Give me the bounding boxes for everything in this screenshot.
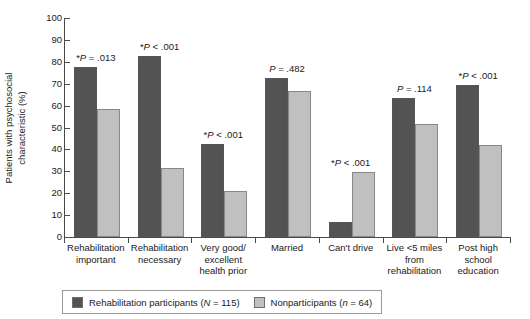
x-axis-line	[64, 237, 511, 238]
y-axis-tick-label: 30	[51, 166, 62, 176]
y-axis-tick-mark	[65, 215, 70, 216]
y-axis-tick-mark	[65, 193, 70, 194]
y-axis-tick-mark	[65, 128, 70, 129]
y-axis-title: Patients with psychosocial characteristi…	[0, 18, 30, 237]
bars-container	[65, 18, 511, 237]
p-value-annotation: *P < .001	[140, 41, 179, 52]
bar-participants	[138, 56, 161, 237]
y-axis-tick-mark	[65, 106, 70, 107]
bar-nonparticipants	[479, 145, 502, 237]
legend-swatch-light	[254, 297, 265, 308]
y-axis-title-line2: characteristic (%)	[15, 18, 28, 237]
p-value-annotation: *P < .001	[458, 70, 497, 81]
x-axis-category-label: Post highschooleducation	[439, 242, 517, 277]
p-value-annotation: *P < .001	[331, 157, 370, 168]
y-axis-tick-mark	[65, 84, 70, 85]
y-axis-tick-label: 80	[51, 57, 62, 67]
y-axis-title-line1: Patients with psychosocial	[3, 18, 16, 237]
bar-participants	[201, 144, 224, 237]
y-axis-tick-mark	[65, 18, 70, 19]
y-axis-tick-label: 50	[51, 123, 62, 133]
x-axis-category-label-line: education	[439, 265, 517, 277]
bar-participants	[456, 85, 479, 237]
p-value-annotation: P = .482	[269, 63, 305, 74]
y-axis-tick-label: 40	[51, 144, 62, 154]
plot-area: *P = .013*P < .001*P < .001P = .482*P < …	[64, 18, 510, 237]
y-axis-tick-labels: 1009080706050403020100	[28, 18, 62, 237]
y-axis-tick-label: 20	[51, 188, 62, 198]
p-value-annotation: *P < .001	[204, 129, 243, 140]
legend-entry: Nonparticipants (n = 64)	[254, 297, 373, 308]
bar-chart-figure: Patients with psychosocial characteristi…	[0, 0, 530, 319]
chart-legend: Rehabilitation participants (N = 115)Non…	[62, 290, 382, 314]
bar-nonparticipants	[352, 172, 375, 237]
y-axis-tick-label: 70	[51, 79, 62, 89]
x-axis-category-label-line: excellent	[184, 254, 262, 266]
bar-nonparticipants	[161, 168, 184, 237]
y-axis-tick-label: 10	[51, 210, 62, 220]
legend-swatch-dark	[72, 297, 83, 308]
x-axis-tick-labels: RehabilitationimportantRehabilitationnec…	[64, 242, 511, 284]
y-axis-tick-label: 0	[57, 232, 62, 242]
x-axis-category-label-line: school	[439, 254, 517, 266]
legend-entry: Rehabilitation participants (N = 115)	[72, 297, 240, 308]
bar-nonparticipants	[415, 124, 438, 237]
bar-participants	[329, 222, 352, 237]
bar-nonparticipants	[97, 109, 120, 237]
p-value-annotation: P = .114	[397, 83, 432, 94]
legend-label: Nonparticipants (n = 64)	[271, 297, 373, 308]
y-axis-tick-label: 60	[51, 101, 62, 111]
y-axis-tick-label: 90	[51, 35, 62, 45]
bar-participants	[265, 78, 288, 237]
bar-nonparticipants	[288, 91, 311, 237]
p-value-annotation: *P = .013	[76, 52, 115, 63]
x-axis-category-label-line: health prior	[184, 265, 262, 277]
y-axis-tick-label: 100	[46, 13, 62, 23]
y-axis-tick-mark	[65, 40, 70, 41]
y-axis-tick-mark	[65, 237, 70, 238]
x-axis-category-label-line: Post high	[439, 242, 517, 254]
y-axis-tick-mark	[65, 62, 70, 63]
bar-participants	[392, 98, 415, 237]
bar-nonparticipants	[224, 191, 247, 237]
legend-label: Rehabilitation participants (N = 115)	[89, 297, 240, 308]
y-axis-tick-mark	[65, 149, 70, 150]
y-axis-tick-mark	[65, 171, 70, 172]
bar-participants	[74, 67, 97, 237]
